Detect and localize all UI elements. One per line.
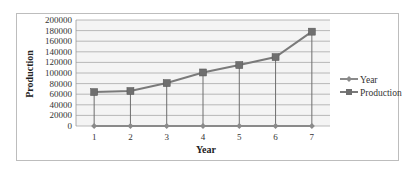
x-axis-title: Year [196, 144, 217, 155]
y-tick-label: 0 [68, 121, 73, 131]
legend-square-icon [346, 89, 352, 95]
y-tick-label: 80000 [50, 79, 73, 89]
y-tick-label: 120000 [45, 57, 73, 67]
x-tick-label: 2 [128, 132, 133, 142]
y-tick-label: 200000 [45, 15, 73, 25]
y-tick-label: 20000 [50, 110, 73, 120]
x-tick-label: 5 [237, 132, 242, 142]
square-marker [308, 28, 315, 35]
legend-label: Production [360, 88, 402, 98]
y-tick-label: 100000 [45, 68, 73, 78]
square-marker [200, 69, 207, 76]
y-tick-label: 160000 [45, 36, 73, 46]
y-axis-title: Production [24, 50, 35, 98]
square-marker [272, 54, 279, 61]
x-tick-label: 6 [273, 132, 278, 142]
y-axis-ticks: 0200004000060000800001000001200001400001… [45, 15, 73, 131]
x-tick-label: 7 [310, 132, 315, 142]
square-marker [91, 89, 98, 96]
x-axis-ticks: 1234567 [92, 132, 315, 142]
x-tick-label: 4 [201, 132, 206, 142]
legend-label: Year [360, 75, 378, 85]
x-tick-label: 1 [92, 132, 97, 142]
square-marker [236, 62, 243, 69]
legend-diamond-icon [346, 76, 352, 82]
x-tick-label: 3 [164, 132, 169, 142]
y-tick-label: 40000 [50, 100, 73, 110]
square-marker [127, 88, 134, 95]
legend: YearProduction [340, 75, 402, 98]
line-chart: 0200004000060000800001000001200001400001… [0, 0, 416, 173]
y-tick-label: 180000 [45, 26, 73, 36]
square-marker [163, 80, 170, 87]
y-tick-label: 140000 [45, 47, 73, 57]
y-tick-label: 60000 [50, 89, 73, 99]
